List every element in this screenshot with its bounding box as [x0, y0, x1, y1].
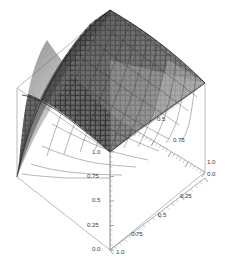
surface-mesh	[0, 0, 229, 266]
y-tick-label-1: 0.5	[157, 116, 165, 122]
surface-plot-figure: 1.0 0.75 0.5 0.25 0.0 0.5 0.75 1.0 0.0 0…	[0, 0, 229, 266]
z-axis	[110, 152, 114, 250]
x-tick-label-4: 0.75	[131, 231, 143, 237]
z-tick-label-4: 0.25	[87, 222, 99, 228]
y-tick-label-3: 1.0	[207, 159, 215, 165]
x-tick-label-1: 0.0	[207, 171, 215, 177]
z-tick-label-3: 0.5	[92, 197, 100, 203]
x-tick-label-2: 0.25	[180, 193, 192, 199]
z-tick-label-5: 0.0	[92, 246, 100, 252]
y-tick-label-2: 0.75	[173, 137, 185, 143]
surface-plot-canvas	[0, 0, 229, 266]
z-axis-major-ticks	[110, 152, 114, 250]
z-tick-label-1: 1.0	[92, 149, 100, 155]
z-tick-label-2: 0.75	[87, 173, 99, 179]
x-tick-label-3: 0.5	[158, 212, 166, 218]
x-tick-label-5: 1.0	[116, 249, 124, 255]
